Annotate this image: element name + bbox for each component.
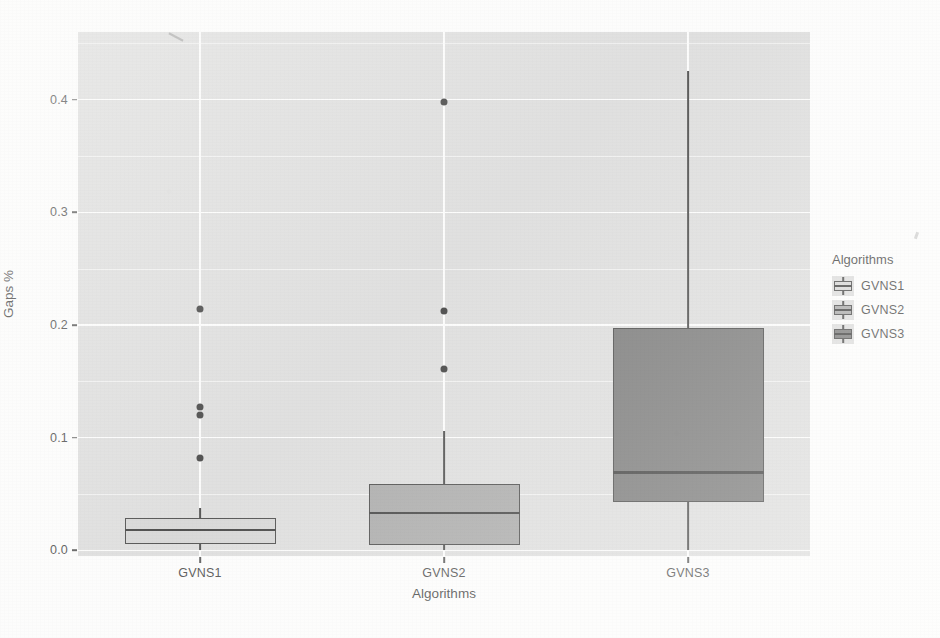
x-tick-mark bbox=[199, 557, 201, 563]
legend-key-icon bbox=[832, 300, 854, 320]
y-tick-mark bbox=[72, 99, 77, 101]
legend-item-gvns3[interactable]: GVNS3 bbox=[832, 323, 904, 345]
y-tick-mark bbox=[72, 550, 77, 552]
x-tick-label-gvns1: GVNS1 bbox=[178, 566, 221, 580]
legend-item-label: GVNS1 bbox=[861, 279, 904, 293]
box-group-gvns3 bbox=[78, 32, 810, 556]
legend-item-label: GVNS2 bbox=[861, 303, 904, 317]
legend-key-icon bbox=[832, 324, 854, 344]
x-tick-label-gvns3: GVNS3 bbox=[666, 566, 709, 580]
y-tick-label: 0.1 bbox=[50, 431, 68, 445]
x-axis-title: Algorithms bbox=[78, 586, 810, 601]
plot-panel bbox=[78, 32, 810, 556]
y-tick-label: 0.4 bbox=[50, 93, 68, 107]
scan-smudge bbox=[914, 232, 919, 240]
box-gvns3 bbox=[613, 328, 764, 502]
legend-items: GVNS1GVNS2GVNS3 bbox=[832, 275, 904, 345]
y-tick-label: 0.2 bbox=[50, 318, 68, 332]
legend-item-gvns1[interactable]: GVNS1 bbox=[832, 275, 904, 297]
boxplot-figure: 0.00.10.20.30.4 Gaps % GVNS1GVNS2GVNS3 A… bbox=[0, 0, 940, 638]
legend-key-icon bbox=[832, 276, 854, 296]
y-axis-title: Gaps % bbox=[1, 270, 16, 318]
y-tick-mark bbox=[72, 324, 77, 326]
x-tick-mark bbox=[443, 557, 445, 563]
y-tick-mark bbox=[72, 212, 77, 214]
whisker-upper bbox=[687, 71, 689, 328]
y-tick-mark bbox=[72, 437, 77, 439]
median-line bbox=[613, 471, 764, 474]
x-tick-mark bbox=[687, 557, 689, 563]
x-tick-label-gvns2: GVNS2 bbox=[422, 566, 465, 580]
legend-item-label: GVNS3 bbox=[861, 327, 904, 341]
y-tick-label: 0.0 bbox=[50, 543, 68, 557]
legend-title: Algorithms bbox=[832, 252, 904, 267]
legend-item-gvns2[interactable]: GVNS2 bbox=[832, 299, 904, 321]
whisker-lower bbox=[687, 502, 689, 550]
y-tick-label: 0.3 bbox=[50, 205, 68, 219]
legend: Algorithms GVNS1GVNS2GVNS3 bbox=[832, 252, 904, 347]
